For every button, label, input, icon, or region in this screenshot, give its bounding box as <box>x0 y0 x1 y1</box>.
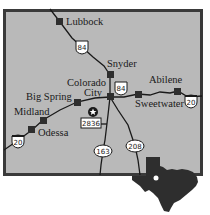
interstate-shield-top-band <box>12 135 24 137</box>
shield-number: 84 <box>117 85 126 93</box>
i-20-shield-east: 20 <box>185 95 197 108</box>
city-label-midland: Midland <box>14 106 50 117</box>
city-marker-snyder <box>107 71 114 78</box>
city-marker-lubbock <box>56 18 63 25</box>
city-label-big-spring: Big Spring <box>26 91 73 102</box>
shield-number: 20 <box>14 139 23 147</box>
city-marker-midland <box>40 117 47 124</box>
city-marker-big-spring <box>74 99 81 106</box>
map: Lubbock Snyder Colorado City Abilene Swe… <box>0 0 210 215</box>
city-label-lubbock: Lubbock <box>66 16 104 27</box>
texas-location-dot <box>154 176 159 181</box>
shield-number: 163 <box>96 148 109 156</box>
city-marker-sweetwater <box>135 91 142 98</box>
state-highway-163-sign: 163 <box>94 145 112 157</box>
interstate-shield-top-band <box>185 95 197 97</box>
city-label-odessa: Odessa <box>38 127 69 138</box>
city-label-abilene: Abilene <box>149 74 183 85</box>
city-label-sweetwater: Sweetwater <box>135 98 184 109</box>
shield-number: 2836 <box>82 120 100 128</box>
shield-number: 208 <box>128 143 141 151</box>
shield-number: 20 <box>187 99 196 107</box>
city-label-snyder: Snyder <box>107 58 137 69</box>
i-20-shield-west: 20 <box>12 135 24 148</box>
city-label-city: City <box>84 87 103 98</box>
us-84-shield-colorado-city: 84 <box>115 82 127 95</box>
farm-road-2836-sign: 2836 <box>81 118 101 128</box>
star-marker <box>88 107 98 117</box>
state-highway-208-sign: 208 <box>126 140 144 152</box>
city-marker-odessa <box>28 126 35 133</box>
us-84-shield-north: 84 <box>76 41 88 54</box>
city-marker-abilene <box>174 88 181 95</box>
shield-number: 84 <box>78 44 87 52</box>
city-marker-colorado-city <box>107 93 114 100</box>
